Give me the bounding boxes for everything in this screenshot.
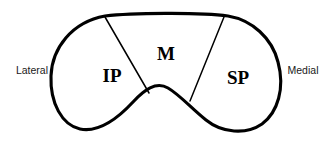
region-label-sp: SP: [227, 67, 250, 88]
orientation-label-lateral: Lateral: [16, 64, 48, 76]
orientation-label-medial: Medial: [288, 64, 319, 76]
diagram-canvas: IP M SP Lateral Medial: [0, 0, 331, 145]
anatomical-diagram: IP M SP Lateral Medial: [0, 0, 331, 145]
region-label-ip: IP: [103, 65, 122, 86]
region-label-m: M: [157, 43, 175, 64]
